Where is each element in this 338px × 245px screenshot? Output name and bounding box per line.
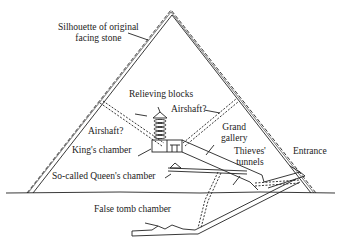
label-grand-gallery: Grand gallery [221,122,247,144]
label-thieves-tunnels-line1: Thieves' [234,146,266,157]
ground-line [6,192,335,193]
descending-passage [195,179,300,234]
label-queens-chamber: So-called Queen's chamber [52,171,156,182]
relieving-blocks [153,112,167,139]
label-facing-stone: Silhouette of original facing stone [58,22,139,44]
label-facing-stone-line1: Silhouette of original [58,22,139,33]
label-thieves-tunnels: Thieves' tunnels [234,146,266,168]
label-false-tomb: False tomb chamber [94,204,171,215]
label-grand-gallery-line1: Grand [221,122,247,133]
queens-chamber [170,163,181,168]
pyramid-diagram: Silhouette of original facing stone Reli… [0,0,338,245]
label-airshaft-right: Airshaft? [171,104,206,115]
label-grand-gallery-line2: gallery [221,133,247,144]
label-kings-chamber: King's chamber [72,145,132,156]
false-tomb-chamber [132,225,198,236]
label-thieves-tunnels-line2: tunnels [234,157,266,168]
label-entrance: Entrance [293,146,327,157]
label-facing-stone-line2: facing stone [58,33,139,44]
label-relieving-blocks: Relieving blocks [129,89,193,100]
label-airshaft-left: Airshaft? [88,126,123,137]
